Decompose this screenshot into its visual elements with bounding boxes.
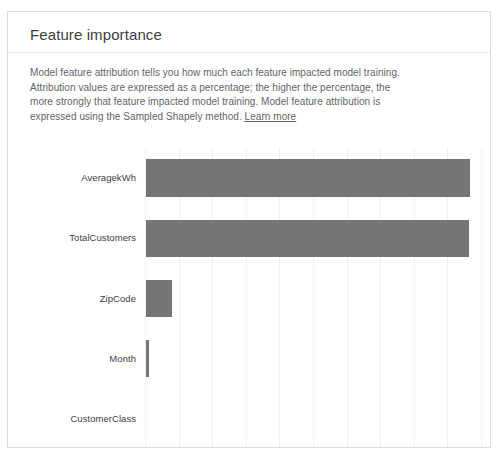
bar-series: [145, 148, 481, 448]
card-header: Feature importance: [8, 12, 490, 53]
screenshot-root: Feature importance Model feature attribu…: [0, 0, 499, 457]
bar-band: [145, 220, 481, 257]
category-label-zipcode: ZipCode: [100, 293, 136, 305]
description-line-1: Model feature attribution tells you how …: [30, 67, 400, 78]
gridline: [481, 148, 482, 448]
bar-zipcode[interactable]: [146, 280, 172, 317]
feature-importance-card: Feature importance Model feature attribu…: [7, 11, 491, 448]
page-title: Feature importance: [30, 26, 162, 44]
plot-area: [145, 148, 481, 448]
bar-totalcustomers[interactable]: [146, 220, 469, 257]
category-label-month: Month: [109, 353, 136, 365]
category-label-customerclass: CustomerClass: [70, 413, 136, 425]
category-label-totalcustomers: TotalCustomers: [69, 232, 136, 244]
feature-importance-chart: AveragekWhTotalCustomersZipCodeMonthCust…: [8, 134, 491, 448]
bar-band: [145, 280, 481, 317]
learn-more-link[interactable]: Learn more: [245, 111, 297, 122]
bar-averagekwh[interactable]: [146, 159, 470, 196]
category-axis-labels: AveragekWhTotalCustomersZipCodeMonthCust…: [8, 148, 145, 448]
bar-band: [145, 159, 481, 196]
description-line-4: using the Sampled Shapely method.: [79, 111, 241, 122]
category-label-averagekwh: AveragekWh: [81, 172, 136, 184]
description-text: Model feature attribution tells you how …: [30, 66, 410, 124]
bar-band: [145, 400, 481, 437]
bar-month[interactable]: [146, 340, 149, 377]
bar-band: [145, 340, 481, 377]
